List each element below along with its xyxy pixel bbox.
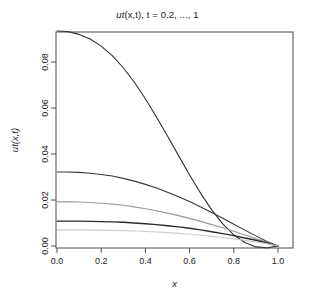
x-axis-title: x	[171, 278, 178, 289]
y-tick-label: 0.04	[40, 145, 50, 163]
x-tick-label: 0.2	[95, 256, 108, 266]
plot-frame	[56, 32, 293, 248]
curve-series-3	[57, 202, 278, 246]
y-axis: 0.000.020.040.060.08	[40, 53, 56, 255]
x-tick-label: 0.4	[139, 256, 152, 266]
x-tick-label: 1.0	[272, 256, 285, 266]
y-axis-title: ut(x,t)	[9, 128, 20, 152]
x-axis: 0.00.20.40.60.81.0	[51, 248, 285, 266]
plot-canvas: 0.00.20.40.60.81.0 0.000.020.040.060.08 …	[0, 0, 315, 298]
y-tick-label: 0.02	[40, 191, 50, 209]
chart-figure: ut(x,t), t = 0.2, ..., 1 0.00.20.40.60.8…	[0, 0, 315, 298]
x-tick-label: 0.8	[228, 256, 241, 266]
curve-series-1	[57, 31, 278, 248]
y-tick-label: 0.00	[40, 237, 50, 255]
x-tick-label: 0.6	[183, 256, 196, 266]
y-tick-label: 0.08	[40, 53, 50, 71]
x-tick-label: 0.0	[51, 256, 64, 266]
y-tick-label: 0.06	[40, 99, 50, 117]
curve-group	[57, 31, 278, 248]
